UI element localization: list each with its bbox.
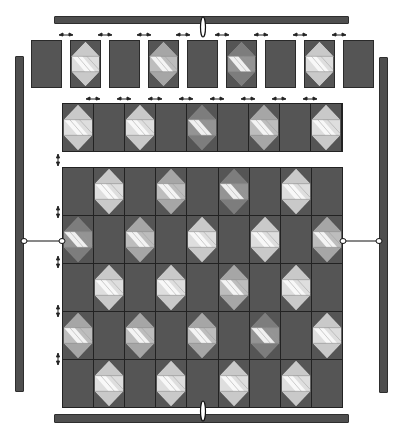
diamond-block (156, 360, 186, 407)
plain-block (125, 360, 155, 407)
diamond-block-icon (156, 360, 186, 407)
plain-block (265, 40, 296, 88)
plain-block (250, 264, 280, 311)
diamond-block-icon (125, 216, 155, 263)
diamond-block-icon (187, 104, 217, 151)
diamond-block (187, 104, 218, 151)
diamond-block (156, 168, 186, 215)
plain-block (187, 264, 217, 311)
diamond-block (219, 264, 249, 311)
diamond-block (125, 312, 155, 359)
plain-block (312, 360, 342, 407)
diamond-block (304, 40, 335, 88)
diamond-block (249, 104, 280, 151)
diamond-block-icon (219, 264, 249, 311)
diamond-block (125, 216, 155, 263)
diamond-block (312, 216, 342, 263)
diamond-block (281, 168, 311, 215)
diamond-block (281, 264, 311, 311)
plain-block (187, 360, 217, 407)
diamond-block-icon (249, 104, 279, 151)
diamond-block (94, 168, 124, 215)
diamond-block-icon (187, 312, 217, 359)
plain-block (250, 168, 280, 215)
diamond-block-icon (311, 104, 341, 151)
plain-block (281, 312, 311, 359)
diamond-block-icon (149, 41, 178, 87)
plain-block (343, 40, 374, 88)
diamond-block (219, 168, 249, 215)
diamond-block-icon (71, 41, 100, 87)
plain-block (94, 104, 125, 151)
plain-block (250, 360, 280, 407)
diamond-block (250, 312, 280, 359)
diamond-block-icon (156, 264, 186, 311)
plain-block (125, 264, 155, 311)
diamond-block (70, 40, 101, 88)
diamond-block-icon (281, 264, 311, 311)
diamond-block-icon (125, 312, 155, 359)
diamond-block-icon (250, 216, 280, 263)
plain-block (281, 216, 311, 263)
plain-block (94, 216, 124, 263)
diamond-block (226, 40, 257, 88)
diamond-block-icon (305, 41, 334, 87)
plain-block (94, 312, 124, 359)
diamond-block (125, 104, 156, 151)
diamond-block-icon (227, 41, 256, 87)
diamond-block (312, 312, 342, 359)
diamond-block-icon (63, 104, 93, 151)
diamond-block-icon (219, 168, 249, 215)
plain-block (125, 168, 155, 215)
diamond-block-icon (63, 312, 93, 359)
plain-block (187, 168, 217, 215)
diamond-block (250, 216, 280, 263)
diamond-block-icon (312, 312, 342, 359)
diamond-block-icon (250, 312, 280, 359)
diamond-block (94, 264, 124, 311)
plain-block (280, 104, 311, 151)
diamond-block (187, 216, 217, 263)
diamond-block-icon (125, 104, 155, 151)
diamond-block-icon (281, 360, 311, 407)
main-quilt-grid (62, 167, 343, 408)
diamond-block-icon (94, 168, 124, 215)
plain-block (109, 40, 140, 88)
diamond-block-icon (94, 264, 124, 311)
diamond-block (219, 360, 249, 407)
plain-block (187, 40, 218, 88)
plain-block (219, 312, 249, 359)
plain-block (63, 264, 93, 311)
diamond-block-icon (281, 168, 311, 215)
top-block-row (31, 40, 374, 88)
plain-block (312, 264, 342, 311)
diamond-block (148, 40, 179, 88)
diamond-block (94, 360, 124, 407)
diamond-block (281, 360, 311, 407)
top-border-strip (54, 16, 349, 24)
diamond-block (311, 104, 342, 151)
bottom-border-strip (54, 414, 349, 423)
plain-block (312, 168, 342, 215)
plain-block (219, 216, 249, 263)
plain-block (156, 216, 186, 263)
plain-block (63, 360, 93, 407)
plain-block (156, 312, 186, 359)
plain-block (218, 104, 249, 151)
diamond-block (187, 312, 217, 359)
diamond-block (63, 216, 93, 263)
left-border-strip (15, 56, 24, 392)
plain-block (31, 40, 62, 88)
plain-block (63, 168, 93, 215)
diamond-block-icon (156, 168, 186, 215)
diamond-block-icon (312, 216, 342, 263)
diamond-block-icon (94, 360, 124, 407)
diamond-block-icon (187, 216, 217, 263)
right-border-strip (379, 57, 388, 393)
diamond-block-icon (63, 216, 93, 263)
diamond-block (63, 312, 93, 359)
diamond-block (156, 264, 186, 311)
plain-block (156, 104, 187, 151)
diamond-block (63, 104, 94, 151)
diamond-block-icon (219, 360, 249, 407)
